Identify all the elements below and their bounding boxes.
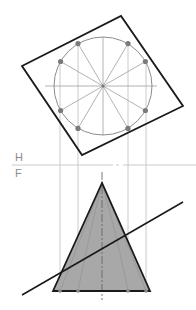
top-view-label: H: [15, 152, 23, 163]
cone-silhouette: [53, 183, 150, 291]
cone-projection-drawing: [0, 0, 196, 310]
front-view-label: F: [15, 168, 22, 179]
top-view: [22, 16, 183, 155]
radial-division-lines: [45, 37, 157, 135]
front-view: [22, 172, 183, 300]
